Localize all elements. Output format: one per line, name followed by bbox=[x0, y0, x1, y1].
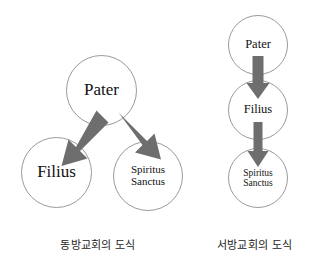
node-west-filius: Filius bbox=[228, 80, 288, 140]
node-east-filius: Filius bbox=[21, 137, 92, 208]
node-label: Filius bbox=[37, 163, 76, 181]
figure-canvas: Pater Filius Spiritus Sanctus Pater Fili… bbox=[0, 0, 313, 272]
node-label: Pater bbox=[84, 81, 119, 99]
node-label: Spiritus Sanctus bbox=[131, 164, 165, 188]
node-label: Pater bbox=[245, 38, 271, 52]
node-west-spiritus-sanctus: Spiritus Sanctus bbox=[228, 148, 288, 208]
node-west-pater: Pater bbox=[228, 15, 288, 75]
node-label: Spiritus Sanctus bbox=[243, 168, 273, 189]
caption-western-church: 서방교회의 도식 bbox=[196, 236, 313, 252]
node-east-spiritus-sanctus: Spiritus Sanctus bbox=[113, 141, 183, 211]
node-label: Filius bbox=[244, 103, 273, 117]
node-east-pater: Pater bbox=[66, 55, 137, 126]
caption-eastern-church: 동방교회의 도식 bbox=[0, 236, 196, 252]
